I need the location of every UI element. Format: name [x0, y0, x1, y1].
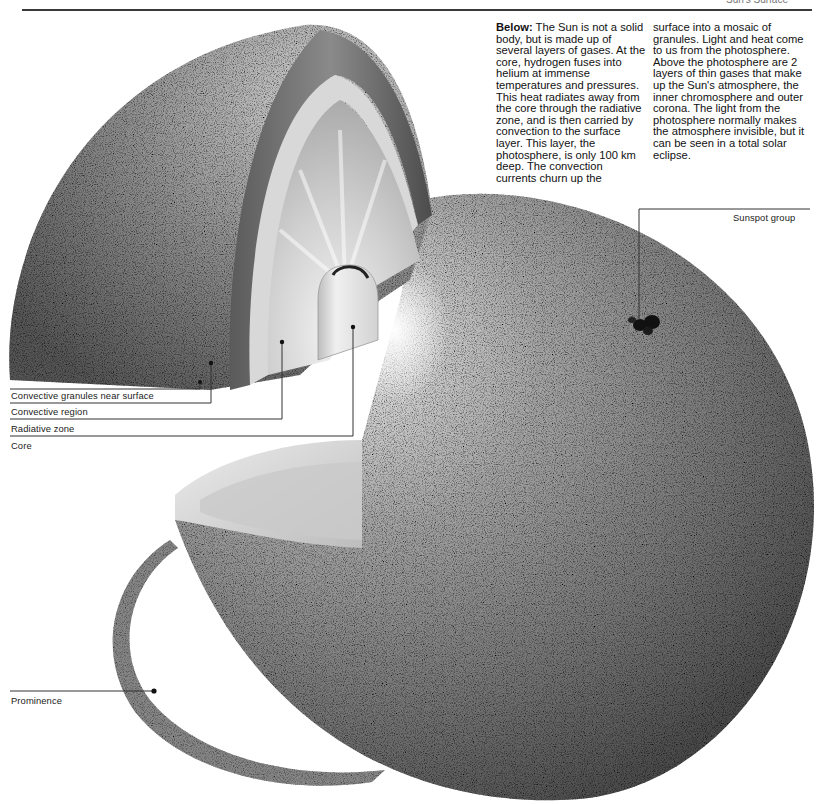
label-prominence: Prominence [11, 695, 62, 706]
label-sunspot-group: Sunspot group [733, 212, 795, 223]
label-core: Core [11, 440, 32, 451]
label-convective-region: Convective region [11, 406, 88, 417]
caption-column-1: Below: The Sun is not a solid body, but … [496, 22, 646, 184]
caption-text-1: The Sun is not a solid body, but is made… [496, 21, 645, 184]
cutaway-cap [9, 25, 432, 390]
label-convective-granules: Convective granules near surface [11, 390, 154, 401]
caption-lead: Below: [496, 21, 533, 33]
label-radiative-zone: Radiative zone [11, 423, 74, 434]
sun-cutaway-diagram: Sun's Surface [0, 0, 816, 804]
caption-column-2: surface into a mosaic of granules. Light… [653, 22, 805, 161]
